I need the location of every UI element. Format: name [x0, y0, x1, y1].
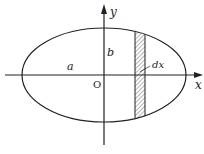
- origin-label: O: [93, 79, 101, 90]
- ellipse-diagram: y x O a b dx: [0, 0, 204, 154]
- y-axis-arrow-icon: [101, 4, 107, 14]
- x-axis-label: x: [195, 78, 202, 92]
- y-axis-label: y: [109, 5, 117, 19]
- strip-width-label: dx: [152, 59, 164, 70]
- semi-minor-label: b: [107, 46, 114, 59]
- semi-major-label: a: [67, 60, 74, 73]
